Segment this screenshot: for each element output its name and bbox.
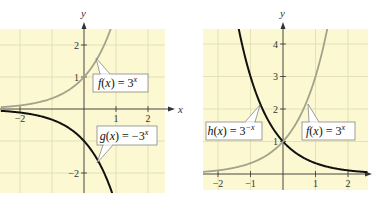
x-tick-label: 1: [313, 178, 318, 189]
chart-1: xy−21221−2f(x) = 3xg(x) = −3x: [0, 0, 183, 198]
y-axis-arrow-icon: [281, 22, 286, 29]
plot-background: [203, 29, 368, 190]
label-text: f(x) = 3x: [306, 123, 345, 138]
chart-2: y−2−1124321h(x) = 3−xf(x) = 3x: [202, 0, 372, 190]
x-tick-label: −2: [213, 178, 224, 189]
y-tick-label: 2: [273, 104, 278, 115]
x-axis-arrow-icon: [168, 107, 175, 112]
x-tick-label: −2: [15, 113, 26, 124]
y-tick-label: −2: [68, 168, 79, 179]
y-axis-arrow-icon: [82, 22, 87, 29]
y-tick-label: 1: [74, 72, 79, 83]
x-tick-label: 1: [114, 113, 119, 124]
x-tick-label: −1: [245, 178, 256, 189]
y-axis-label: y: [279, 7, 285, 19]
plot-background: [0, 29, 165, 193]
x-tick-label: 2: [146, 113, 151, 124]
y-tick-label: 2: [74, 40, 79, 51]
label-text: g(x) = −3x: [100, 128, 149, 143]
y-axis-label: y: [80, 7, 86, 19]
figure: xy−21221−2f(x) = 3xg(x) = −3xy−2−1124321…: [0, 0, 373, 198]
x-tick-label: 2: [346, 178, 351, 189]
x-axis-label: x: [177, 103, 183, 115]
y-tick-label: 1: [273, 136, 278, 147]
y-tick-label: 3: [273, 71, 278, 82]
label-text: f(x) = 3x: [98, 75, 137, 90]
y-tick-label: 4: [273, 39, 278, 50]
